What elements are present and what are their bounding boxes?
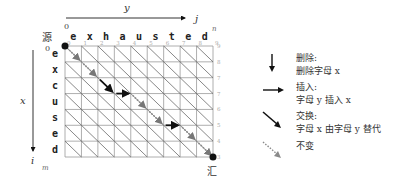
grid-diagonal bbox=[65, 125, 81, 141]
grid-diagonal bbox=[65, 109, 81, 125]
row-score: 9 bbox=[217, 43, 221, 49]
grid-diagonal bbox=[197, 109, 213, 125]
row-letters: excused bbox=[52, 48, 58, 154]
grid-diagonal bbox=[180, 46, 196, 62]
grid-diagonal bbox=[147, 141, 163, 157]
sink-node bbox=[210, 154, 217, 161]
grid-diagonal bbox=[147, 94, 163, 110]
grid-diagonal bbox=[114, 62, 130, 78]
grid-diagonal bbox=[197, 78, 213, 94]
column-index: 6 bbox=[166, 40, 170, 46]
axis-m-label: m bbox=[42, 164, 49, 172]
grid-diagonal bbox=[114, 125, 130, 141]
column-letter: h bbox=[103, 31, 109, 42]
column-letter: d bbox=[202, 31, 208, 42]
row-letter: c bbox=[52, 80, 58, 91]
grid-diagonal bbox=[197, 125, 213, 141]
axis-x-label: x bbox=[20, 95, 26, 106]
grid-diagonal bbox=[180, 62, 196, 78]
column-letter: x bbox=[87, 31, 93, 42]
grid-diagonal bbox=[164, 141, 180, 157]
row-letter: u bbox=[52, 96, 58, 107]
alignment-grid bbox=[65, 46, 213, 157]
grid-diagonal bbox=[114, 141, 130, 157]
grid-diagonal bbox=[131, 141, 147, 157]
right-arrow-icon bbox=[262, 81, 292, 103]
legend-insert-desc: 字母 y 插入 x bbox=[296, 94, 351, 107]
grid-diagonal bbox=[131, 46, 147, 62]
column-letter: a bbox=[120, 31, 126, 42]
legend-insert-title: 插入: bbox=[296, 81, 351, 94]
legend-substitute-desc: 字母 x 由字母 y 替代 bbox=[296, 123, 381, 136]
axis-n-label: n bbox=[212, 25, 217, 33]
row-letter: x bbox=[52, 64, 58, 75]
row-score: 7 bbox=[217, 91, 221, 97]
origin-row-label: 0 bbox=[45, 44, 50, 53]
grid-diagonal bbox=[164, 62, 180, 78]
row-score: 8 bbox=[217, 59, 221, 65]
grid-diagonal bbox=[147, 46, 163, 62]
grid-diagonal bbox=[98, 46, 114, 62]
grid-diagonal bbox=[81, 94, 97, 110]
column-letter: u bbox=[136, 31, 142, 42]
grid-diagonal bbox=[114, 78, 130, 94]
row-score: 6 bbox=[217, 106, 221, 112]
grid-diagonal bbox=[98, 125, 114, 141]
grid-diagonal bbox=[180, 141, 196, 157]
grid-diagonal bbox=[197, 62, 213, 78]
grid-diagonal bbox=[114, 46, 130, 62]
source-label: 源 bbox=[42, 31, 52, 43]
grid-diagonal bbox=[81, 141, 97, 157]
vertical-axis: x i m 0 源 bbox=[20, 31, 52, 172]
row-score: 7 bbox=[217, 75, 221, 81]
sink-label: 汇 bbox=[207, 165, 217, 177]
diagonal-arrow-icon bbox=[262, 110, 292, 132]
column-index: 5 bbox=[149, 40, 153, 46]
grid-diagonal bbox=[180, 78, 196, 94]
grid-diagonal bbox=[164, 46, 180, 62]
grid-diagonal bbox=[81, 78, 97, 94]
axis-j-label: j bbox=[193, 13, 198, 24]
legend: 删除: 删除字母 x 插入: 字母 y 插入 x 交换: 字母 x 由字母 y … bbox=[262, 0, 405, 191]
row-letter: d bbox=[52, 144, 58, 155]
row-letter: s bbox=[52, 112, 58, 123]
row-score: 5 bbox=[217, 122, 221, 128]
column-index: 7 bbox=[182, 40, 186, 46]
row-score: 4 bbox=[217, 138, 221, 144]
axis-i-label: i bbox=[31, 155, 34, 166]
axis-y-label: y bbox=[123, 2, 130, 13]
grid-diagonal bbox=[147, 78, 163, 94]
grid-diagonal bbox=[197, 46, 213, 62]
column-letter: e bbox=[185, 31, 191, 42]
column-letter: s bbox=[152, 31, 158, 42]
grid-diagonal bbox=[131, 78, 147, 94]
horizontal-axis: y j n 0 bbox=[64, 2, 217, 33]
down-arrow-icon bbox=[262, 52, 292, 74]
grid-diagonal bbox=[164, 78, 180, 94]
grid-diagonal bbox=[147, 62, 163, 78]
grid-diagonal bbox=[164, 109, 180, 125]
grid-diagonal bbox=[81, 125, 97, 141]
grid-diagonal bbox=[81, 109, 97, 125]
legend-delete-desc: 删除字母 x bbox=[296, 65, 340, 78]
grid-diagonal bbox=[131, 125, 147, 141]
column-index: 1 bbox=[83, 40, 87, 46]
grid-diagonal bbox=[164, 125, 180, 141]
row-letter: e bbox=[52, 128, 58, 139]
grid-diagonal bbox=[65, 141, 81, 157]
column-letter: t bbox=[169, 31, 175, 42]
column-letter: e bbox=[70, 31, 76, 42]
row-score: 3 bbox=[217, 154, 221, 160]
source-node bbox=[62, 43, 69, 50]
legend-substitute-title: 交换: bbox=[296, 110, 381, 123]
legend-unchanged-title: 不变 bbox=[296, 140, 314, 153]
grid-diagonal bbox=[114, 94, 130, 110]
grid-diagonal bbox=[65, 62, 81, 78]
row-letter: e bbox=[52, 48, 58, 59]
origin-col-label: 0 bbox=[64, 22, 69, 31]
legend-delete-title: 删除: bbox=[296, 52, 340, 65]
grid-diagonal bbox=[98, 109, 114, 125]
right-numbers: 98776543 bbox=[217, 43, 221, 160]
grid-diagonal bbox=[98, 94, 114, 110]
column-index: 2 bbox=[100, 40, 104, 46]
